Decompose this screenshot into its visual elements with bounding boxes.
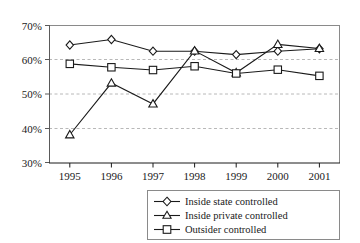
square-marker xyxy=(149,66,156,73)
x-tick-label-1995: 1995 xyxy=(59,170,82,182)
y-tick-label-70: 70% xyxy=(22,20,42,32)
square-marker xyxy=(274,66,281,73)
legend-item-outsider-controlled[interactable]: Outsider controlled xyxy=(154,224,267,235)
square-icon xyxy=(163,226,171,234)
x-tick-label-1997: 1997 xyxy=(142,170,165,182)
legend-label-0: Inside state controlled xyxy=(185,196,278,207)
x-tick-label-1996: 1996 xyxy=(100,170,123,182)
y-tick-label-40: 40% xyxy=(22,123,42,135)
square-marker xyxy=(108,64,115,71)
legend-label-1: Inside private controlled xyxy=(185,210,288,221)
x-tick-label-2001: 2001 xyxy=(308,170,330,182)
legend: Inside state controlled Inside private c… xyxy=(148,191,340,240)
y-tick-label-60: 60% xyxy=(22,54,42,66)
y-tick-label-50: 50% xyxy=(22,88,42,100)
legend-label-2: Outsider controlled xyxy=(185,224,267,235)
line-chart: 70% 60% 50% 40% 30% 1995 1996 1997 1998 … xyxy=(0,0,360,243)
y-tick-label-30: 30% xyxy=(22,157,42,169)
x-tick-label-1999: 1999 xyxy=(225,170,248,182)
square-marker xyxy=(316,72,323,79)
x-tick-label-1998: 1998 xyxy=(184,170,207,182)
square-marker xyxy=(233,70,240,77)
square-marker xyxy=(66,60,73,67)
x-tick-label-2000: 2000 xyxy=(267,170,290,182)
chart-canvas: 70% 60% 50% 40% 30% 1995 1996 1997 1998 … xyxy=(0,0,360,243)
square-marker xyxy=(191,63,198,70)
